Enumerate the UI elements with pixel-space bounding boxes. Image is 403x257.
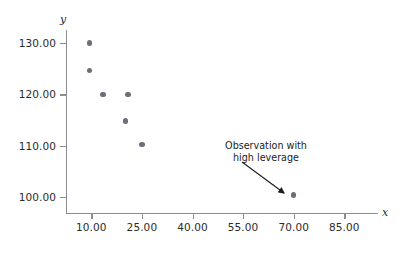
x-tick-label: 10.00 [76, 221, 107, 233]
x-axis-label: x [382, 206, 388, 219]
scatter-plot-figure: y x 100.00110.00120.00130.00 10.0025.004… [0, 0, 403, 257]
x-tick-mark [91, 213, 92, 219]
x-tick-label: 55.00 [228, 221, 259, 233]
y-tick-mark [60, 197, 67, 198]
x-tick-mark [142, 213, 143, 219]
annotation-line-1: Observation with [214, 140, 318, 152]
data-point [87, 40, 92, 45]
y-axis-line [66, 30, 67, 214]
annotation-arrow-icon [240, 160, 296, 200]
y-tick-label: 100.00 [19, 191, 56, 203]
data-point [125, 92, 130, 97]
x-axis-line [66, 213, 378, 214]
y-tick-mark [60, 94, 67, 95]
y-axis-label: y [60, 13, 66, 26]
y-tick-label: 130.00 [19, 37, 56, 49]
data-point [123, 118, 128, 123]
y-tick-label: 110.00 [19, 140, 56, 152]
x-tick-label: 85.00 [329, 221, 360, 233]
x-tick-label: 40.00 [177, 221, 208, 233]
x-tick-label: 70.00 [278, 221, 309, 233]
data-point [139, 142, 144, 147]
y-tick-mark [60, 43, 67, 44]
y-tick-label: 120.00 [19, 88, 56, 100]
data-point [100, 92, 105, 97]
x-tick-label: 25.00 [127, 221, 158, 233]
x-tick-mark [243, 213, 244, 219]
x-tick-mark [344, 213, 345, 219]
x-tick-mark [193, 213, 194, 219]
data-point [87, 68, 92, 73]
y-tick-mark [60, 146, 67, 147]
x-tick-mark [294, 213, 295, 219]
